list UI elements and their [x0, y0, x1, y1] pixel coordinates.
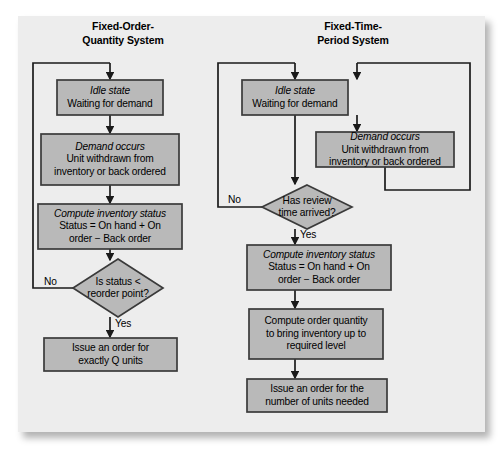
- node-issue-order-units-needed: [247, 379, 387, 412]
- left-column-title-line2: Quantity System: [82, 34, 163, 46]
- left-column-title-line1: Fixed-Order-: [92, 20, 154, 32]
- right-column-title-line1: Fixed-Time-: [324, 20, 382, 32]
- right-yes-label: Yes: [300, 229, 316, 240]
- edge-demand-return-loop: [357, 63, 470, 190]
- right-no-label: No: [228, 194, 241, 205]
- flowchart-figure: Fixed-Order- Quantity System Fixed-Time-…: [0, 0, 502, 457]
- left-column-title: Fixed-Order- Quantity System: [48, 20, 198, 47]
- node-compute-order-quantity: [249, 309, 383, 359]
- node-idle-state: [242, 80, 348, 115]
- node-has-review-time-arrived: [262, 185, 352, 229]
- right-column-title: Fixed-Time- Period System: [278, 20, 428, 47]
- left-no-label: No: [44, 276, 57, 287]
- flowchart-canvas: [0, 0, 502, 457]
- right-column-title-line2: Period System: [317, 34, 389, 46]
- node-issue-order-exact-q: [44, 338, 177, 371]
- node-demand-occurs: [316, 132, 454, 167]
- node-is-status-below-reorder-point: [73, 259, 163, 317]
- node-compute-inventory-status: [247, 245, 391, 290]
- node-compute-inventory-status: [38, 204, 182, 249]
- node-idle-state: [57, 80, 163, 115]
- node-demand-occurs: [41, 134, 179, 185]
- right-column-shapes: [242, 80, 454, 412]
- left-yes-label: Yes: [115, 318, 131, 329]
